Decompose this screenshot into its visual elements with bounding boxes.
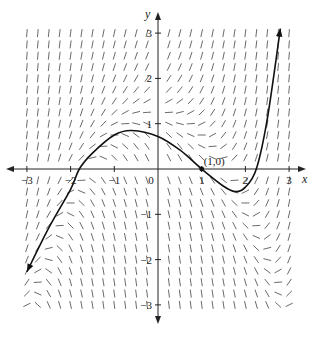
y-tick-label: −2 (140, 254, 152, 266)
slope-segment (125, 267, 126, 274)
slope-segment (277, 211, 279, 218)
slope-segment (167, 143, 171, 149)
slope-segment (221, 132, 225, 138)
x-tick-label: −3 (21, 174, 33, 186)
slope-segment (26, 188, 27, 195)
slope-segment (102, 200, 105, 207)
slope-segment (222, 222, 224, 229)
slope-segment (102, 64, 104, 71)
slope-segment (37, 63, 38, 70)
slope-segment (266, 188, 268, 195)
slope-segment (70, 75, 71, 82)
slope-segment (26, 120, 27, 127)
slope-segment (212, 41, 214, 48)
slope-segment (256, 109, 257, 116)
slope-segment (92, 41, 93, 48)
slope-segment (256, 41, 257, 48)
slope-segment (27, 30, 28, 37)
slope-segment (265, 211, 269, 217)
slope-segment (35, 269, 41, 273)
slope-segment (168, 30, 170, 37)
slope-segment (27, 75, 28, 82)
slope-segment (134, 144, 138, 150)
slope-segment (103, 52, 105, 59)
slope-segment (59, 52, 60, 59)
slope-segment (90, 178, 96, 182)
slope-segment (265, 290, 269, 296)
slope-segment (147, 279, 148, 286)
curve-arrow-icon (27, 263, 33, 272)
slope-segment (124, 211, 126, 218)
slope-segment (244, 120, 246, 127)
slope-segment (135, 222, 136, 229)
slope-segment (113, 87, 116, 93)
slope-segment (255, 132, 257, 139)
slope-segment (37, 52, 38, 59)
slope-segment (278, 86, 279, 93)
slope-segment (278, 52, 279, 59)
slope-segment (92, 256, 94, 263)
slope-segment (26, 143, 27, 150)
slope-segment (233, 222, 236, 228)
slope-segment (201, 267, 202, 274)
slope-segment (267, 30, 268, 37)
slope-segment (223, 301, 224, 308)
slope-segment (103, 256, 104, 263)
slope-segment (232, 155, 237, 160)
slope-segment (201, 301, 202, 308)
slope-segment (101, 109, 105, 115)
slope-segment (167, 64, 170, 70)
slope-segment (70, 279, 72, 286)
slope-segment (233, 132, 236, 138)
slope-segment (200, 87, 203, 93)
slope-segment (114, 279, 115, 286)
slope-segment (277, 222, 280, 229)
slope-segment (245, 30, 246, 37)
slope-segment (288, 256, 291, 263)
slope-segment (289, 30, 290, 37)
slope-segment (200, 75, 203, 82)
slope-segment (27, 86, 28, 93)
curve-arrow-icon (276, 29, 282, 37)
slope-segment (124, 222, 126, 229)
slope-segment (91, 234, 93, 241)
slope-segment (135, 64, 138, 71)
slope-segment (266, 177, 268, 184)
slope-segment (266, 154, 268, 161)
slope-segment (91, 121, 95, 127)
slope-segment (223, 256, 225, 263)
slope-segment (59, 64, 60, 71)
slope-segment (144, 99, 150, 103)
x-tick-label: 2 (243, 174, 249, 186)
slope-segment (92, 301, 93, 308)
slope-segment (223, 75, 225, 82)
slope-segment (27, 63, 28, 70)
y-axis-label: y (144, 7, 151, 21)
slope-segment (266, 200, 269, 207)
slope-segment (189, 64, 192, 71)
slope-segment (112, 98, 116, 104)
slope-segment (211, 86, 214, 93)
slope-segment (26, 154, 27, 161)
slope-segment (135, 188, 137, 195)
slope-segment (245, 301, 247, 308)
slope-segment (256, 75, 257, 82)
slope-segment (233, 143, 237, 149)
slope-segment (124, 200, 126, 207)
slope-segment (242, 213, 248, 216)
slope-segment (57, 246, 62, 251)
slope-segment (221, 178, 227, 182)
slope-segment (27, 109, 28, 116)
slope-segment (179, 211, 181, 218)
slope-segment (48, 75, 49, 82)
y-tick-label: 1 (147, 118, 153, 130)
slope-segment (26, 222, 28, 229)
slope-segment (201, 211, 203, 218)
slope-segment (48, 97, 49, 104)
slope-segment (100, 133, 106, 137)
slope-segment (244, 154, 247, 160)
slope-segment (209, 133, 215, 137)
slope-segment (201, 256, 202, 263)
slope-segment (278, 63, 279, 70)
slope-segment (169, 301, 170, 308)
